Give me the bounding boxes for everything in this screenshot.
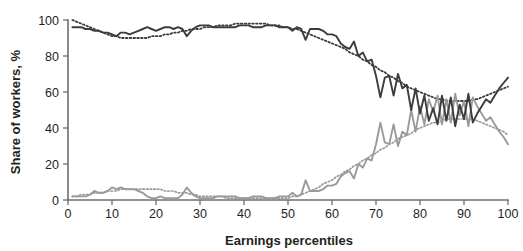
x-tick-label: 50	[281, 207, 295, 221]
chart-tick-marks	[63, 20, 508, 205]
series-line	[72, 20, 508, 101]
series-line	[72, 94, 508, 198]
series-line	[72, 119, 508, 198]
x-tick-label: 60	[325, 207, 339, 221]
x-tick-label: 70	[369, 207, 383, 221]
x-tick-label: 10	[105, 207, 119, 221]
chart-series-lines	[72, 20, 508, 198]
y-tick-label: 100	[38, 14, 59, 28]
chart-figure: 0102030405060708090100020406080100 Earni…	[0, 0, 523, 251]
chart-axes	[68, 20, 508, 200]
y-tick-label: 60	[45, 86, 59, 100]
x-tick-label: 40	[237, 207, 251, 221]
x-tick-label: 30	[193, 207, 207, 221]
series-line	[72, 25, 508, 126]
x-tick-label: 90	[457, 207, 471, 221]
x-tick-label: 100	[498, 207, 519, 221]
x-tick-label: 80	[413, 207, 427, 221]
y-tick-label: 40	[45, 122, 59, 136]
x-tick-label: 20	[149, 207, 163, 221]
y-tick-label: 0	[52, 194, 59, 208]
x-tick-label: 0	[65, 207, 72, 221]
y-tick-label: 20	[45, 158, 59, 172]
x-axis-title: Earnings percentiles	[225, 233, 353, 248]
y-tick-label: 80	[45, 50, 59, 64]
line-chart: 0102030405060708090100020406080100 Earni…	[0, 0, 523, 251]
y-axis-title: Share of workers, %	[8, 49, 23, 174]
